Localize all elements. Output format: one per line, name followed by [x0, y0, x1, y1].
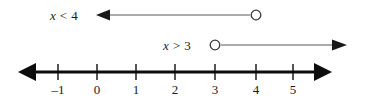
ray-x-greater-than-3: x>3 [162, 38, 347, 53]
axis-tick-label-0: 0 [94, 82, 101, 97]
axis-tick-label-2: 2 [172, 82, 179, 97]
ray-one-operator: < [60, 8, 67, 23]
ray-one-label: x<4 [49, 8, 78, 23]
ray-two-right-arrowhead [332, 40, 347, 51]
number-line-axis: –1 0 1 2 3 4 5 [18, 63, 332, 97]
ray-one-variable: x [49, 8, 56, 23]
ray-x-less-than-4: x<4 [49, 8, 261, 23]
axis-left-arrowhead [18, 63, 36, 81]
ray-one-open-endpoint [251, 10, 261, 20]
axis-tick-label-1: 1 [133, 82, 140, 97]
axis-tick-label-3: 3 [212, 82, 219, 97]
axis-tick-label-4: 4 [253, 82, 260, 97]
ray-two-label: x>3 [162, 38, 191, 53]
ray-one-left-arrowhead [96, 10, 110, 21]
ray-two-open-endpoint [210, 40, 220, 50]
axis-tick-label--1: –1 [51, 82, 65, 97]
axis-tick-label-5: 5 [290, 82, 297, 97]
ray-two-operator: > [173, 38, 180, 53]
ray-one-value: 4 [71, 8, 78, 23]
number-line-figure: x<4 x>3 [0, 0, 366, 99]
ray-two-variable: x [162, 38, 169, 53]
ray-two-value: 3 [184, 38, 191, 53]
axis-right-arrowhead [314, 63, 332, 81]
